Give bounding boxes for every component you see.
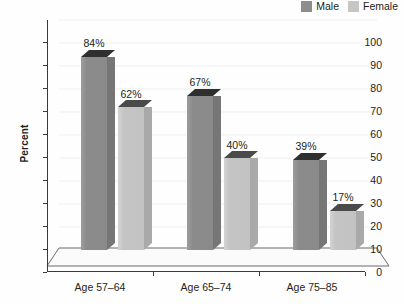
y-axis-title: Percent <box>19 124 30 162</box>
x-tick-label-age-75-85: Age 75–85 <box>259 282 365 293</box>
y-tick-label-40: 40 <box>370 175 382 186</box>
bar-value-female-age-57-64: 62% <box>114 89 148 100</box>
bar-front-face <box>118 107 144 250</box>
y-tick-label-80: 80 <box>370 83 382 94</box>
y-tick-label-90: 90 <box>370 60 382 71</box>
y-tick-label-100: 100 <box>364 37 382 48</box>
bar-top-face <box>293 153 319 160</box>
y-tick-label-70: 70 <box>370 106 382 117</box>
bar-value-female-age-75-85: 17% <box>326 192 360 203</box>
x-tick-label-age-65-74: Age 65–74 <box>153 282 259 293</box>
x-tick <box>259 272 260 276</box>
y-tick <box>43 42 47 43</box>
bar-top-face <box>118 100 144 107</box>
bar-front-face <box>224 158 250 250</box>
bar-female-age-75-85 <box>330 211 356 250</box>
y-tick-label-60: 60 <box>370 129 382 140</box>
bar-front-face <box>330 211 356 250</box>
bar-top-face <box>224 151 250 158</box>
bar-chart: Male Female Percent <box>0 0 404 304</box>
y-tick-label-0: 0 <box>376 267 382 278</box>
bar-value-male-age-57-64: 84% <box>77 38 111 49</box>
bar-top-face <box>187 89 213 96</box>
y-tick <box>43 65 47 66</box>
bar-front-face <box>187 96 213 250</box>
x-axis-line <box>47 271 365 272</box>
bar-top-face <box>81 50 107 57</box>
x-tick <box>153 272 154 276</box>
y-tick-label-20: 20 <box>370 221 382 232</box>
y-tick <box>43 203 47 204</box>
legend-item-female: Female <box>348 1 398 12</box>
y-tick-label-30: 30 <box>370 198 382 209</box>
y-axis-line <box>47 20 48 272</box>
x-tick <box>365 272 366 276</box>
y-tick <box>43 226 47 227</box>
bar-side-face <box>144 107 152 250</box>
bar-top-face <box>330 204 356 211</box>
plot-area: Percent <box>47 20 387 272</box>
chart-legend: Male Female <box>301 1 398 12</box>
bar-side-face <box>319 160 327 250</box>
y-tick <box>43 157 47 158</box>
bar-side-face <box>250 158 258 250</box>
bar-front-face <box>293 160 319 250</box>
bar-female-age-57-64 <box>118 107 144 250</box>
legend-label-female: Female <box>363 1 398 12</box>
y-tick <box>43 249 47 250</box>
bar-value-female-age-65-74: 40% <box>220 140 254 151</box>
y-tick <box>43 272 47 273</box>
y-tick <box>43 134 47 135</box>
y-tick <box>43 180 47 181</box>
legend-item-male: Male <box>301 1 339 12</box>
bar-side-face <box>107 57 115 250</box>
bar-male-age-57-64 <box>81 57 107 250</box>
x-tick-label-age-57-64: Age 57–64 <box>47 282 153 293</box>
legend-swatch-female-icon <box>348 1 359 12</box>
bar-front-face <box>81 57 107 250</box>
y-tick <box>43 88 47 89</box>
bar-male-age-65-74 <box>187 96 213 250</box>
bar-value-male-age-75-85: 39% <box>289 141 323 152</box>
bar-female-age-65-74 <box>224 158 250 250</box>
bar-value-male-age-65-74: 67% <box>183 77 217 88</box>
y-tick <box>43 111 47 112</box>
y-tick-label-50: 50 <box>370 152 382 163</box>
bar-male-age-75-85 <box>293 160 319 250</box>
bar-side-face <box>213 96 221 250</box>
legend-label-male: Male <box>316 1 339 12</box>
y-tick-label-10: 10 <box>370 244 382 255</box>
legend-swatch-male-icon <box>301 1 312 12</box>
